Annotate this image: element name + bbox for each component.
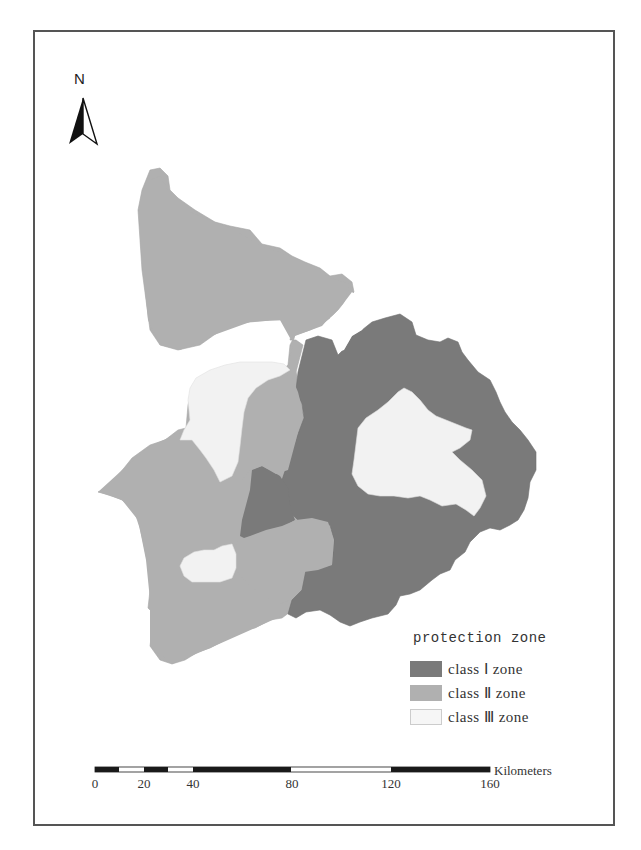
scale-unit-label: Kilometers [494,763,552,779]
scale-tick-label: 0 [92,776,99,792]
legend-swatch-class-1 [410,661,442,677]
scale-tick-label: 20 [138,776,151,792]
legend-label: class Ⅰ zone [448,660,523,678]
legend-item-class-1: class Ⅰ zone [410,660,523,678]
legend-title: protection zone [413,630,547,646]
scale-tick-label: 80 [286,776,299,792]
north-label: N [74,70,85,87]
legend-item-class-3: class Ⅲ zone [410,708,529,726]
scale-tick-label: 120 [381,776,401,792]
legend-swatch-class-3 [410,709,442,725]
legend-label: class Ⅱ zone [448,684,526,702]
scale-tick-label: 40 [187,776,200,792]
legend-label: class Ⅲ zone [448,708,529,726]
legend-item-class-2: class Ⅱ zone [410,684,526,702]
legend-swatch-class-2 [410,685,442,701]
scale-bar [95,767,490,772]
